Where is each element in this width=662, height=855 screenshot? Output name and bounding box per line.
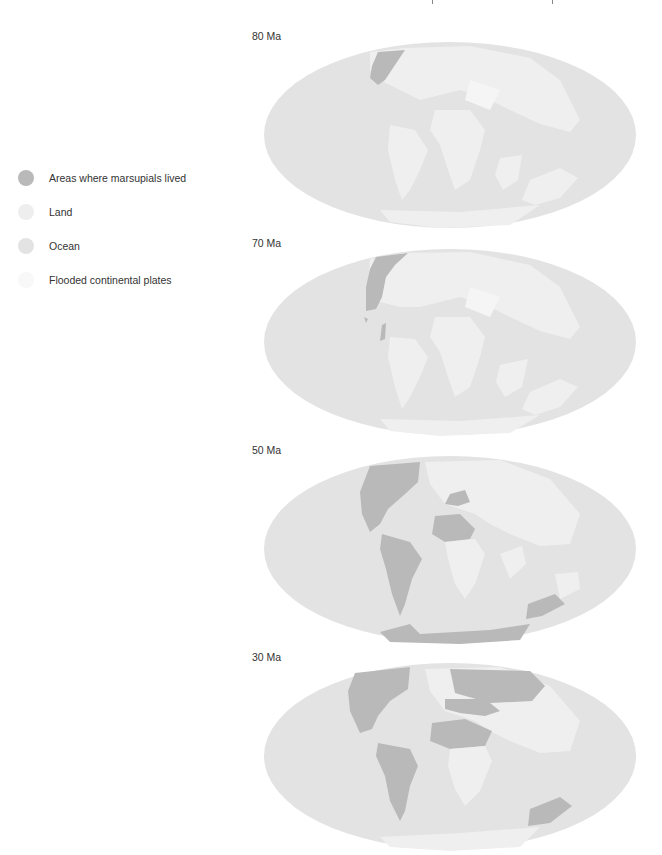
map-legend: Areas where marsupials lived Land Ocean … xyxy=(18,161,186,297)
legend-item-land: Land xyxy=(18,195,186,229)
legend-label: Areas where marsupials lived xyxy=(49,172,186,184)
flooded-swatch-icon xyxy=(18,272,34,288)
legend-item-ocean: Ocean xyxy=(18,229,186,263)
paleomap-30ma xyxy=(260,661,640,851)
map-panel-50ma: 50 Ma xyxy=(252,444,660,649)
legend-item-flooded-plates: Flooded continental plates xyxy=(18,263,186,297)
page-edge-marks xyxy=(0,0,662,6)
paleomap-80ma xyxy=(260,40,640,230)
marsupial-swatch-icon xyxy=(18,170,34,186)
map-panel-30ma: 30 Ma xyxy=(252,651,660,855)
paleomap-70ma xyxy=(260,247,640,437)
map-panel-80ma: 80 Ma xyxy=(252,30,660,235)
legend-label: Ocean xyxy=(49,240,80,252)
legend-label: Land xyxy=(49,206,72,218)
paleomap-50ma xyxy=(260,454,640,644)
land-swatch-icon xyxy=(18,204,34,220)
legend-item-marsupial-areas: Areas where marsupials lived xyxy=(18,161,186,195)
map-panel-70ma: 70 Ma xyxy=(252,237,660,442)
legend-label: Flooded continental plates xyxy=(49,274,172,286)
ocean-swatch-icon xyxy=(18,238,34,254)
